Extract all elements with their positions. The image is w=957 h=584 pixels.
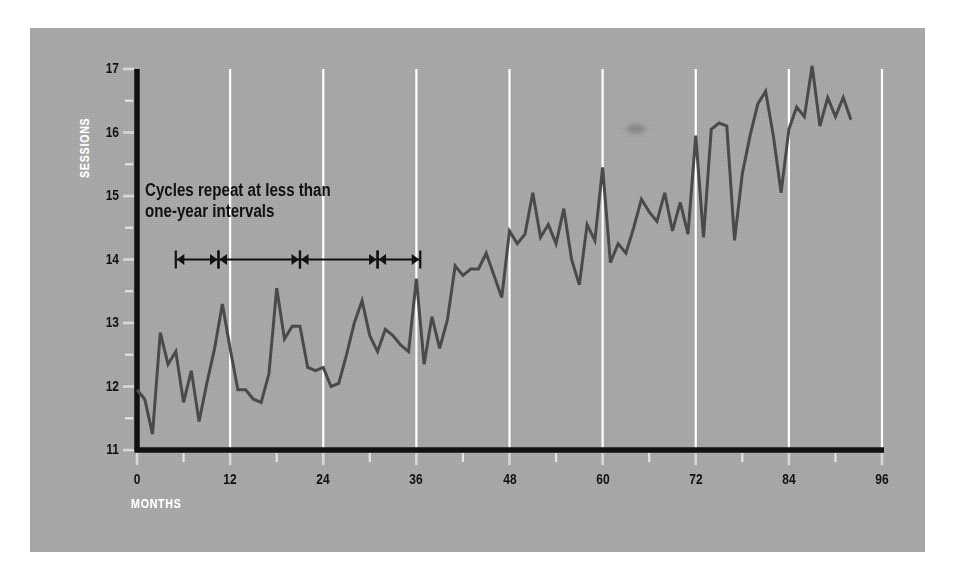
x-tick-label-72: 72 — [676, 470, 716, 487]
y-tick-label-17: 17 — [92, 59, 119, 76]
y-tick-label-12: 12 — [92, 377, 119, 394]
arrow-head-left-1 — [219, 254, 227, 265]
x-tick-label-12: 12 — [210, 470, 250, 487]
x-tick-label-24: 24 — [303, 470, 343, 487]
x-tick-label-0: 0 — [117, 470, 157, 487]
arrow-head-right-0 — [210, 254, 218, 265]
figure-root: Cycles repeat at less than one-year inte… — [0, 0, 957, 584]
y-tick-label-14: 14 — [92, 250, 119, 267]
y-tick-label-13: 13 — [92, 313, 119, 330]
series-line-sessions — [137, 66, 851, 434]
x-tick-label-96: 96 — [862, 470, 902, 487]
cycle-annotation-label: Cycles repeat at less than one-year inte… — [145, 180, 331, 222]
arrow-head-left-3 — [379, 254, 387, 265]
x-tick-label-84: 84 — [769, 470, 809, 487]
axis-ticks — [123, 69, 882, 465]
cycle-arrow-annotations — [176, 251, 420, 269]
x-tick-label-36: 36 — [396, 470, 436, 487]
y-axis-title: SESSIONS — [77, 118, 92, 178]
arrow-head-right-2 — [369, 254, 377, 265]
arrow-head-left-2 — [301, 254, 309, 265]
y-tick-label-16: 16 — [92, 123, 119, 140]
arrow-head-left-0 — [177, 254, 185, 265]
y-tick-label-15: 15 — [92, 186, 119, 203]
y-tick-label-11: 11 — [92, 440, 119, 457]
x-axis-title: MONTHS — [131, 496, 182, 511]
x-tick-label-48: 48 — [490, 470, 530, 487]
print-smudge-artifact — [626, 124, 646, 134]
arrow-head-right-1 — [291, 254, 299, 265]
data-line-sessions — [137, 66, 851, 434]
x-tick-label-60: 60 — [583, 470, 623, 487]
chart-panel: Cycles repeat at less than one-year inte… — [30, 28, 925, 552]
